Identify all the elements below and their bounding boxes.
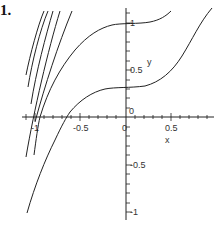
y-tick-label-origin: 0 [129,106,134,116]
y-axis-title: y [147,57,152,67]
curve-lower [27,8,212,213]
x-axis [22,113,214,121]
y-tick-label: 0.5 [130,65,143,75]
chart-canvas: -1 -0.5 0 0.5 0 1 0.5 -0.5 -1 x y [0,0,215,225]
curve-upper [34,11,171,155]
steep-curve [35,11,72,122]
x-tick-label: -0.5 [73,123,89,133]
solution-curves [26,8,212,213]
steep-curve [26,11,60,157]
y-tick-label: -1 [130,207,138,217]
x-tick-label: 0 [122,123,127,133]
steep-curve [26,11,44,75]
x-tick-label: 0.5 [165,123,178,133]
x-axis-title: x [165,135,170,145]
y-tick-label: -0.5 [130,160,146,170]
steep-curve [28,11,48,87]
